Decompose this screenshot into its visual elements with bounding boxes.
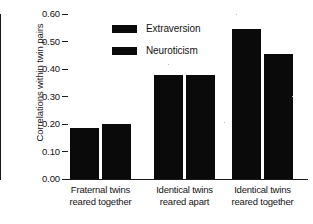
scan-speckle [168, 64, 169, 65]
x-axis-line [67, 179, 308, 180]
bar-neuroticism-group-3 [264, 54, 293, 179]
bar-neuroticism-group-1 [102, 124, 131, 179]
x-axis-category-label-3: Identical twinsreared together [213, 184, 313, 207]
scan-speckle [58, 124, 59, 125]
bar-neuroticism-group-2 [186, 75, 215, 179]
bar-extraversion-group-2 [154, 75, 183, 180]
category-label-line: Identical twins [213, 184, 313, 196]
legend-label: Extraversion [146, 23, 200, 34]
bar-extraversion-group-3 [232, 29, 261, 179]
scan-speckle [224, 122, 225, 123]
legend-swatch-icon [112, 25, 137, 33]
legend-item-extraversion: Extraversion [112, 20, 200, 37]
scan-speckle [292, 96, 293, 97]
category-label-line: reared together [213, 196, 313, 208]
legend-swatch-icon [112, 47, 137, 55]
legend-item-neuroticism: Neuroticism [112, 42, 200, 59]
chart-legend: Extraversion Neuroticism [112, 20, 200, 64]
x-axis-category-labels: Fraternal twinsreared togetherIdentical … [0, 184, 313, 220]
legend-label: Neuroticism [146, 45, 198, 56]
scan-speckle [236, 14, 237, 15]
bar-chart: Correlations within twin pairs 0.600.500… [0, 0, 313, 224]
bar-extraversion-group-1 [70, 128, 99, 179]
